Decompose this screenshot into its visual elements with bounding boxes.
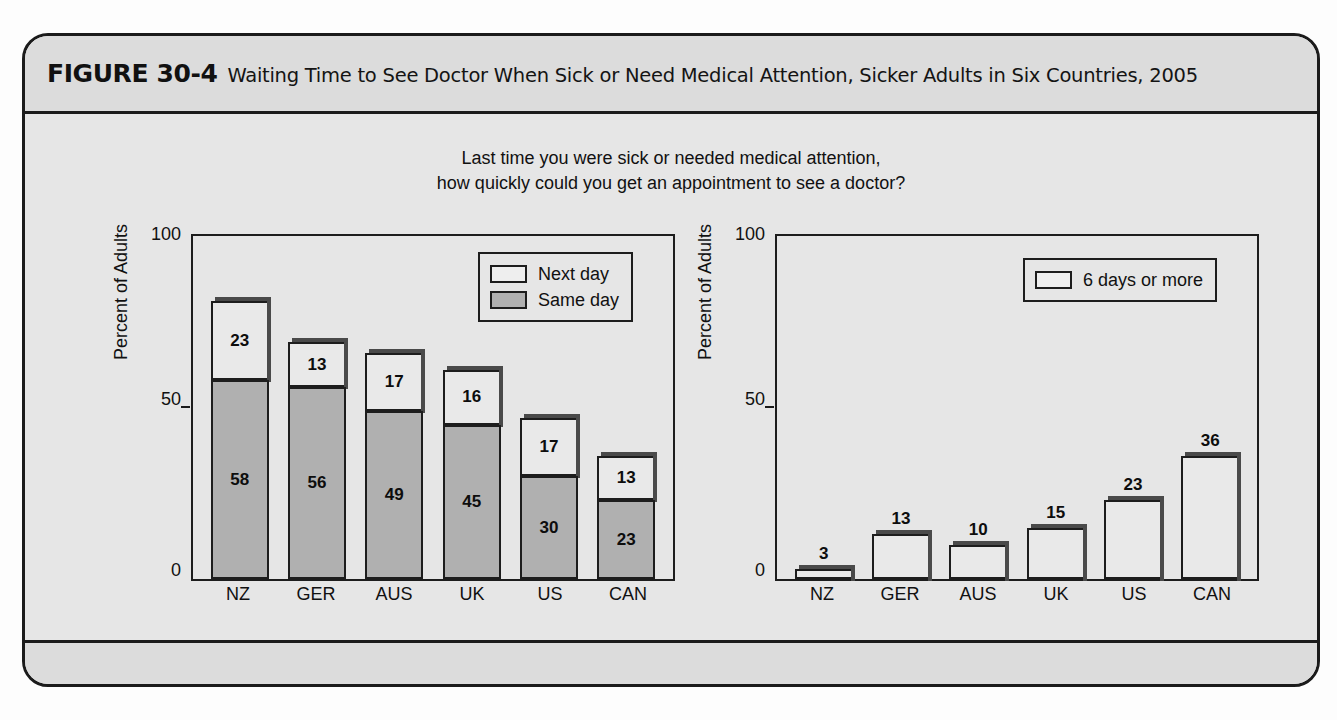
legend-label-same-day: Same day	[538, 290, 619, 311]
bar-segment-same-day: 56	[288, 387, 346, 579]
bar-segment-six-days-or-more: 13	[872, 534, 930, 579]
bar-value-label: 3	[819, 544, 828, 564]
y-axis-title-right: Percent of Adults	[695, 224, 716, 360]
bar-segment-next-day: 13	[288, 342, 346, 387]
y-tick-0-left: 0	[135, 560, 181, 581]
bar-segment-next-day: 23	[211, 301, 269, 380]
figure-title: Waiting Time to See Doctor When Sick or …	[227, 64, 1197, 87]
bar-value-label: 36	[1201, 431, 1220, 451]
figure-footer-band	[25, 640, 1317, 684]
x-axis-labels-right: NZGERAUSUKUSCAN	[775, 584, 1259, 605]
bar-segment-same-day: 49	[365, 411, 423, 579]
chart-panel-left: Percent of Adults 100 50 0 2358135617491…	[113, 224, 675, 604]
y-axis-title-left: Percent of Adults	[111, 224, 132, 360]
bar-value-label: 10	[969, 520, 988, 540]
bar-segment-same-day: 58	[211, 380, 269, 579]
bar-value-label: 30	[540, 518, 559, 538]
bar-value-label: 13	[308, 355, 327, 375]
y-tickmark-50-right	[765, 406, 774, 408]
y-tick-50-right: 50	[719, 389, 765, 410]
bar-segment-next-day: 16	[443, 370, 501, 425]
y-tick-100-left: 100	[135, 224, 181, 245]
x-axis-label: CAN	[1183, 584, 1241, 605]
chart-question-line2: how quickly could you get an appointment…	[25, 171, 1317, 196]
bar-segment-six-days-or-more: 3	[795, 569, 853, 579]
y-tick-50-left: 50	[135, 389, 181, 410]
figure-header: FIGURE 30-4 Waiting Time to See Doctor W…	[25, 36, 1317, 114]
x-axis-label: US	[521, 584, 579, 605]
bar-value-label: 16	[462, 387, 481, 407]
plot-area-right: 31310152336 6 days or more	[775, 234, 1259, 581]
chart-question: Last time you were sick or needed medica…	[25, 146, 1317, 196]
bar-value-label: 23	[230, 331, 249, 351]
x-axis-label: GER	[287, 584, 345, 605]
figure-header-inner: FIGURE 30-4 Waiting Time to See Doctor W…	[25, 59, 1198, 88]
bar-value-label: 58	[230, 470, 249, 490]
x-axis-label: CAN	[599, 584, 657, 605]
bar-value-label: 49	[385, 485, 404, 505]
legend-item-six-days-or-more: 6 days or more	[1035, 267, 1203, 293]
bar-column: 2358	[211, 236, 269, 579]
bar-column: 13	[872, 236, 930, 579]
bar-segment-six-days-or-more: 10	[949, 545, 1007, 579]
y-axis-ticks-right: 100 50 0	[719, 224, 765, 584]
legend-swatch-same-day	[490, 291, 527, 309]
legend-swatch-six-days-or-more	[1035, 271, 1072, 289]
x-axis-label: UK	[443, 584, 501, 605]
legend-label-six-days-or-more: 6 days or more	[1083, 270, 1203, 291]
legend-right: 6 days or more	[1023, 258, 1217, 302]
chart-panel-right: Percent of Adults 100 50 0 31310152336 6…	[697, 224, 1259, 604]
y-tick-100-right: 100	[719, 224, 765, 245]
legend-item-same-day: Same day	[490, 287, 619, 313]
bar-segment-next-day: 17	[520, 418, 578, 476]
bar-value-label: 23	[1124, 475, 1143, 495]
y-axis-ticks-left: 100 50 0	[135, 224, 181, 584]
x-axis-labels-left: NZGERAUSUKUSCAN	[191, 584, 675, 605]
bar-segment-six-days-or-more: 36	[1181, 456, 1239, 579]
legend-left: Next day Same day	[478, 252, 633, 322]
bar-segment-same-day: 23	[597, 500, 655, 579]
bar-segment-same-day: 45	[443, 425, 501, 579]
plot-area-left: 235813561749164517301323 Next day Same d…	[191, 234, 675, 581]
bar-value-label: 17	[385, 372, 404, 392]
figure-body: Last time you were sick or needed medica…	[25, 114, 1317, 646]
figure-screenshot: FIGURE 30-4 Waiting Time to See Doctor W…	[0, 0, 1337, 720]
y-tickmark-50-left	[181, 406, 190, 408]
bar-segment-same-day: 30	[520, 476, 578, 579]
bar-value-label: 23	[617, 530, 636, 550]
figure-number: FIGURE 30-4	[47, 59, 217, 88]
bar-segment-next-day: 17	[365, 353, 423, 411]
x-axis-label: UK	[1027, 584, 1085, 605]
bar-segment-six-days-or-more: 15	[1027, 528, 1085, 579]
bar-value-label: 17	[540, 437, 559, 457]
bar-column: 1749	[365, 236, 423, 579]
legend-label-next-day: Next day	[538, 264, 609, 285]
bar-column: 1356	[288, 236, 346, 579]
chart-question-line1: Last time you were sick or needed medica…	[25, 146, 1317, 171]
bar-segment-six-days-or-more: 23	[1104, 500, 1162, 579]
y-tick-0-right: 0	[719, 560, 765, 581]
bar-value-label: 15	[1046, 503, 1065, 523]
bar-value-label: 56	[308, 473, 327, 493]
x-axis-label: NZ	[209, 584, 267, 605]
x-axis-label: NZ	[793, 584, 851, 605]
bar-segment-next-day: 13	[597, 456, 655, 501]
x-axis-label: AUS	[365, 584, 423, 605]
legend-item-next-day: Next day	[490, 261, 619, 287]
bar-value-label: 13	[892, 509, 911, 529]
x-axis-label: US	[1105, 584, 1163, 605]
bar-column: 10	[949, 236, 1007, 579]
bar-value-label: 45	[462, 492, 481, 512]
figure-frame: FIGURE 30-4 Waiting Time to See Doctor W…	[22, 33, 1320, 687]
legend-swatch-next-day	[490, 265, 527, 283]
x-axis-label: AUS	[949, 584, 1007, 605]
bar-column: 3	[795, 236, 853, 579]
x-axis-label: GER	[871, 584, 929, 605]
bar-value-label: 13	[617, 468, 636, 488]
